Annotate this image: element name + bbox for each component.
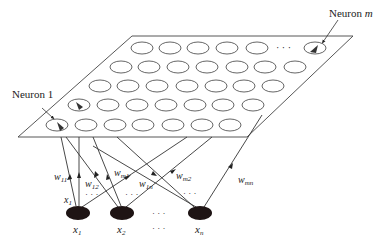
input-label-x1: x1: [72, 223, 81, 237]
weight-ellipsis-1: · · ·: [85, 189, 99, 199]
input-node-x1: [66, 206, 90, 220]
weight-label-w11: w11: [54, 171, 67, 184]
neuron-m-label: Neuron m: [329, 7, 373, 19]
neuron-1-label: Neuron 1: [12, 88, 53, 100]
weight-label-wmn: wmn: [238, 174, 254, 187]
weight-label-wm2: wm2: [176, 170, 192, 183]
output-layer-plane: [18, 36, 353, 137]
weight-ellipsis-2: · · ·: [125, 189, 139, 199]
edge-input-label-x1: x1: [63, 194, 72, 207]
input-label-xn: xn: [194, 223, 204, 237]
input-layer: [66, 206, 212, 220]
input-label-x2: x2: [116, 223, 126, 237]
som-diagram: · · · Neuron 1 Neuron m w11 w12 wm1 w1n: [0, 0, 379, 245]
weight-ellipsis-3: · · ·: [183, 188, 197, 198]
weight-label-wm1: wm1: [114, 167, 129, 180]
input-ellipsis-1: · · ·: [152, 208, 166, 218]
input-ellipsis-2: · · ·: [152, 223, 166, 233]
input-node-x2: [110, 206, 134, 220]
grid-ellipsis: · · ·: [276, 42, 291, 53]
input-node-xn: [188, 206, 212, 220]
